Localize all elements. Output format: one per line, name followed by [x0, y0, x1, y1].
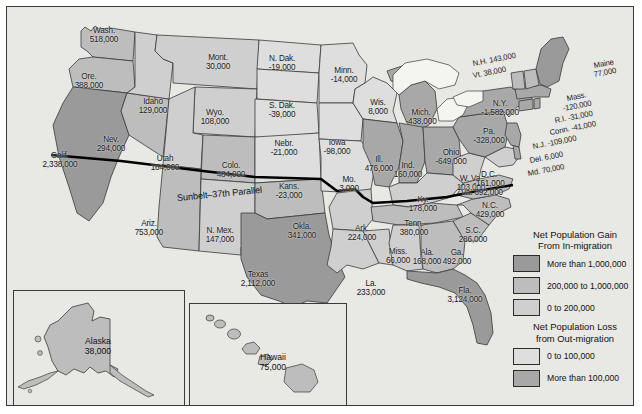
hawaii-label: Hawaii 75,000 — [228, 352, 318, 372]
legend-label-gain-2: 0 to 200,000 — [547, 303, 595, 313]
legend-gain-heading-line1: Net Population Gain — [513, 229, 634, 240]
legend-loss-heading-line1: Net Population Loss — [513, 321, 634, 332]
legend-row-gain-1: 200,000 to 1,000,000 — [513, 277, 634, 294]
hawaii-name: Hawaii — [228, 352, 318, 362]
alaska-inset-map: Alaska 38,000 — [13, 290, 185, 406]
map-container: .st{stroke:#3a3a3a;stroke-width:.8;strok… — [0, 0, 642, 414]
legend-label-gain-1: 200,000 to 1,000,000 — [547, 281, 628, 291]
legend-gain-items: More than 1,000,000200,000 to 1,000,0000… — [513, 255, 634, 316]
legend-swatch-gain-1 — [513, 277, 540, 294]
main-map-panel: .st{stroke:#3a3a3a;stroke-width:.8;strok… — [6, 6, 634, 406]
map-legend: Net Population Gain From In-migration Mo… — [513, 229, 634, 392]
legend-loss-items: 0 to 100,000More than 100,000 — [513, 348, 634, 387]
alaska-name: Alaska — [48, 336, 148, 346]
legend-swatch-loss-1 — [513, 370, 540, 387]
legend-label-loss-0: 0 to 100,000 — [547, 351, 595, 361]
legend-swatch-gain-0 — [513, 255, 540, 272]
legend-swatch-gain-2 — [513, 299, 540, 316]
hawaii-value: 75,000 — [228, 362, 318, 372]
alaska-label: Alaska 38,000 — [48, 336, 148, 356]
legend-gain-heading: Net Population Gain From In-migration — [513, 229, 634, 251]
legend-row-gain-0: More than 1,000,000 — [513, 255, 634, 272]
legend-loss-heading: Net Population Loss from Out-migration — [513, 321, 634, 343]
legend-row-loss-1: More than 100,000 — [513, 370, 634, 387]
legend-swatch-loss-0 — [513, 348, 540, 365]
legend-label-loss-1: More than 100,000 — [547, 373, 619, 383]
legend-gain-heading-line2: From In-migration — [513, 240, 634, 251]
legend-loss-heading-line2: from Out-migration — [513, 333, 634, 344]
legend-label-gain-0: More than 1,000,000 — [547, 259, 626, 269]
hawaii-inset-map: Hawaii 75,000 — [189, 303, 347, 406]
legend-row-gain-2: 0 to 200,000 — [513, 299, 634, 316]
alaska-value: 38,000 — [48, 346, 148, 356]
legend-row-loss-0: 0 to 100,000 — [513, 348, 634, 365]
